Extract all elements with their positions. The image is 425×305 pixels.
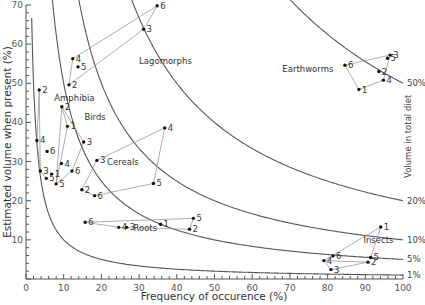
point-label: 4	[168, 123, 173, 133]
point-label: 6	[75, 166, 80, 176]
data-point	[50, 172, 53, 175]
point-label: 2	[193, 224, 198, 234]
x-tick-label: 20	[96, 283, 108, 293]
point-label: 1	[164, 219, 169, 229]
data-point	[382, 78, 385, 81]
data-point	[188, 228, 191, 231]
axes: 010203040506070809010010203040506070	[12, 0, 412, 293]
group-label-birds: Birds	[84, 112, 106, 122]
data-point	[117, 226, 120, 229]
point-label: 6	[88, 217, 93, 227]
data-point	[82, 140, 85, 143]
connector-line	[95, 183, 154, 195]
point-label: 6	[160, 1, 165, 11]
point-label: 1	[70, 121, 75, 131]
data-point	[67, 83, 70, 86]
isopleth-label: 5%	[407, 254, 421, 264]
data-point	[80, 188, 83, 191]
point-label: 1	[384, 222, 389, 232]
x-tick-label: 10	[58, 283, 70, 293]
point-label: 5	[156, 178, 161, 188]
data-point	[37, 88, 40, 91]
data-point	[60, 162, 63, 165]
point-label: 3	[334, 265, 339, 275]
connector-line	[85, 218, 193, 222]
x-tick-label: 0	[23, 283, 29, 293]
data-point	[377, 70, 380, 73]
data-point	[71, 57, 74, 60]
isopleth-10pct	[79, 0, 403, 240]
y-tick-label: 60	[12, 39, 24, 49]
point-label: 2	[85, 185, 90, 195]
data-point	[142, 28, 145, 31]
group-label-earthworms: Earthworms	[282, 64, 334, 74]
point-label: 2	[371, 257, 376, 267]
isopleth-label: 50%	[407, 78, 425, 88]
point-label: 2	[65, 102, 70, 112]
data-point	[343, 64, 346, 67]
data-points: 2453624635121346534265643152635241164352	[35, 1, 398, 275]
data-point	[35, 139, 38, 142]
isopleth-label: 20%	[407, 196, 425, 206]
y-tick-label: 20	[12, 196, 24, 206]
data-point	[39, 169, 42, 172]
data-point	[366, 260, 369, 263]
point-label: 4	[40, 135, 45, 145]
data-point	[70, 169, 73, 172]
y-axis-label: Estimated volume when present (%)	[1, 46, 13, 238]
point-label: 1	[362, 85, 367, 95]
data-point	[192, 217, 195, 220]
isopleth-label: 10%	[407, 235, 425, 245]
point-label: 6	[50, 146, 55, 156]
point-label: 5	[81, 62, 86, 72]
point-label: 1	[55, 169, 60, 179]
data-point	[159, 223, 162, 226]
point-label: 3	[43, 166, 48, 176]
data-point	[152, 182, 155, 185]
connector-line	[37, 90, 39, 140]
point-label: 3	[87, 137, 92, 147]
data-point	[322, 259, 325, 262]
group-label-insects: Insects	[363, 235, 394, 245]
data-point	[155, 4, 158, 7]
point-label: 4	[386, 75, 391, 85]
isopleth-20pct	[132, 0, 403, 201]
group-label-roots: Roots	[133, 223, 157, 233]
data-point	[163, 126, 166, 129]
x-tick-label: 80	[322, 283, 334, 293]
connector-line	[153, 128, 164, 184]
data-point	[60, 105, 63, 108]
group-label-amphibia: Amphibia	[54, 93, 94, 103]
data-point	[66, 125, 69, 128]
point-label: 6	[348, 60, 353, 70]
point-label: 6	[98, 191, 103, 201]
x-tick-label: 90	[360, 283, 372, 293]
y-tick-label: 70	[12, 0, 24, 10]
x-axis-label: Frequency of occurence (%)	[141, 290, 288, 302]
scatter-chart: 50%20%10%5%1% 01020304050607080901001020…	[0, 0, 425, 305]
y-tick-label: 30	[12, 157, 24, 167]
right-axis-label: Volume in total diet	[403, 94, 413, 178]
data-point	[54, 182, 57, 185]
group-labels: LagomorphsAmphibiaBirdsCerealsRootsEarth…	[54, 56, 394, 245]
point-label: 6	[336, 251, 341, 261]
point-label: 5	[196, 213, 201, 223]
data-point	[76, 65, 79, 68]
data-point	[357, 88, 360, 91]
data-point	[45, 150, 48, 153]
connector-line	[97, 128, 165, 160]
data-point	[83, 221, 86, 224]
point-label: 2	[42, 85, 47, 95]
point-label: 4	[64, 159, 69, 169]
y-tick-label: 50	[12, 78, 24, 88]
x-tick-label: 100	[394, 283, 411, 293]
data-point	[45, 177, 48, 180]
isopleth-label: 1%	[407, 270, 421, 280]
data-point	[329, 268, 332, 271]
y-tick-label: 10	[12, 235, 24, 245]
point-label: 3	[147, 24, 152, 34]
point-label: 5	[59, 179, 64, 189]
data-point	[386, 57, 389, 60]
point-label: 5	[391, 53, 396, 63]
point-label: 2	[72, 80, 77, 90]
